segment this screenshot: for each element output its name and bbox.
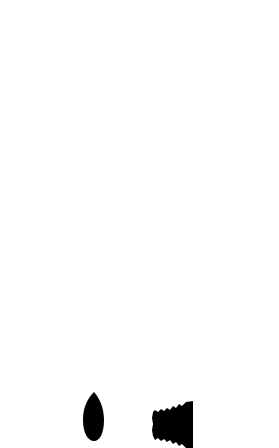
dropper-bulb-icon [83,385,104,441]
bellows-icon [152,401,193,448]
receptor-diagram [0,0,279,448]
bottom-icons [83,385,193,448]
